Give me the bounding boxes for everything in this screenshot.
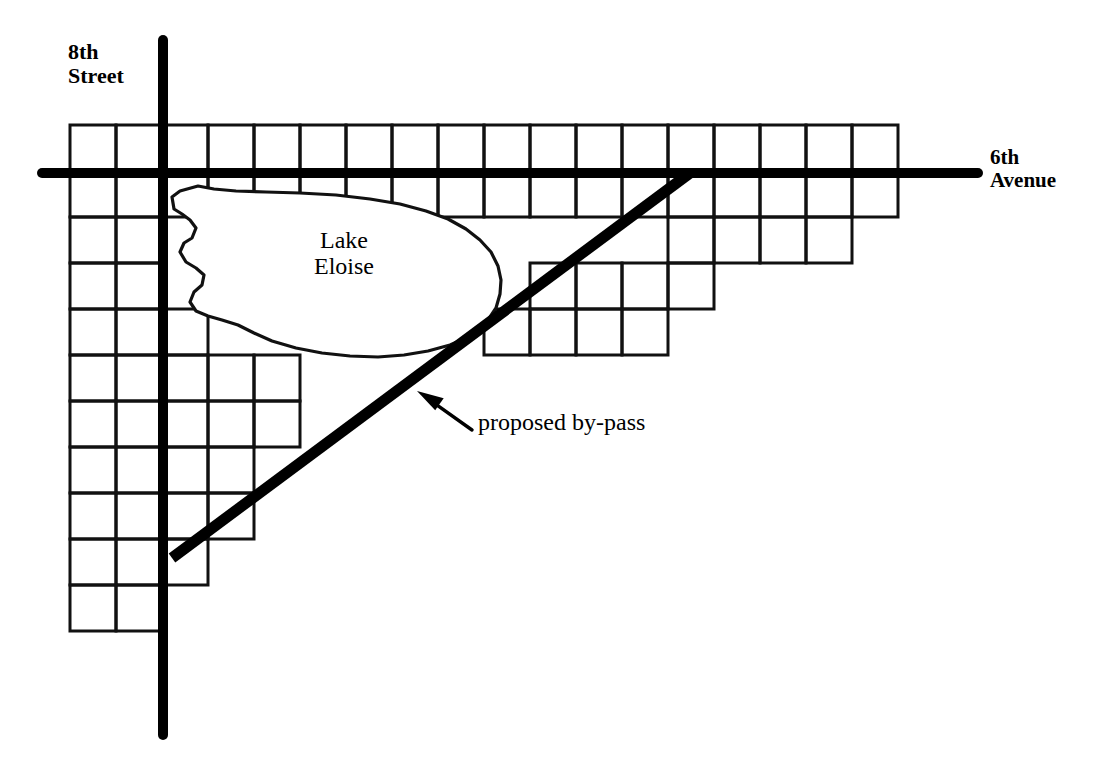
label-6th-avenue: 6th Avenue bbox=[990, 146, 1056, 191]
label-8th-street: 8th Street bbox=[68, 40, 124, 88]
label-lake-eloise: Lake Eloise bbox=[314, 228, 374, 280]
map-diagram: 8th Street 6th Avenue Lake Eloise propos… bbox=[0, 0, 1106, 780]
map-canvas bbox=[0, 0, 1106, 780]
label-proposed-bypass: proposed by-pass bbox=[478, 410, 645, 436]
